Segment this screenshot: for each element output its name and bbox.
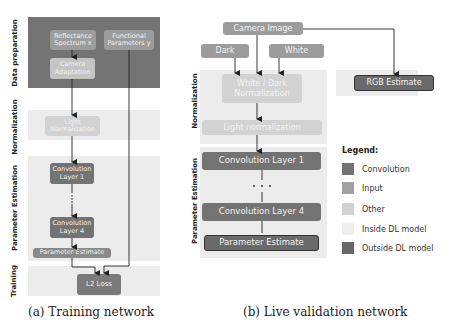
arrow-camera-rgb	[303, 29, 394, 74]
arrow-functional-loss	[104, 50, 129, 273]
ellipsis-dots	[71, 185, 271, 203]
arrow-param-loss	[72, 258, 95, 273]
connectors	[0, 0, 465, 328]
